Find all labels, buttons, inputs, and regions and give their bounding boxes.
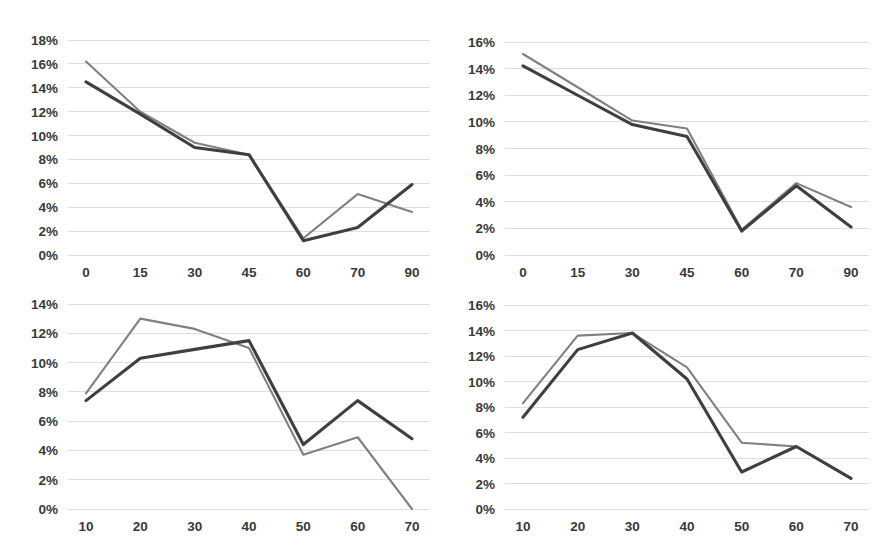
- x-axis-tick-label: 90: [404, 265, 419, 280]
- y-axis-tick-label: 14%: [468, 324, 495, 339]
- y-axis-tick-label: 2%: [475, 477, 495, 492]
- y-axis-tick-label: 10%: [31, 129, 58, 144]
- y-axis-tick-label: 2%: [38, 473, 58, 488]
- x-axis-tick-label: 10: [78, 519, 93, 534]
- y-axis-tick-label: 0%: [475, 248, 495, 263]
- y-axis-tick-label: 0%: [38, 502, 58, 517]
- x-axis-tick-label: 30: [187, 265, 202, 280]
- x-axis-tick-label: 10: [515, 519, 530, 534]
- y-axis-tick-label: 0%: [475, 502, 495, 517]
- y-axis-tick-label: 8%: [38, 385, 58, 400]
- series-line-series-b: [86, 341, 412, 445]
- x-axis-tick-label: 30: [187, 519, 202, 534]
- x-axis-tick-label: 60: [296, 265, 311, 280]
- y-axis-tick-label: 14%: [468, 62, 495, 77]
- series-line-series-a: [86, 319, 412, 509]
- x-axis-tick-label: 60: [350, 519, 365, 534]
- chart-panel-bottom-left: 0%2%4%6%8%10%12%14%10203040506070: [0, 282, 437, 560]
- x-axis-tick-label: 45: [679, 265, 695, 280]
- x-axis-tick-label: 50: [734, 519, 749, 534]
- x-axis-tick-label: 15: [133, 265, 149, 280]
- y-axis-tick-label: 10%: [468, 375, 495, 390]
- y-axis-tick-label: 14%: [31, 297, 58, 312]
- y-axis-tick-label: 0%: [38, 248, 58, 263]
- y-axis-tick-label: 14%: [31, 81, 58, 96]
- chart-bottom-right: 0%2%4%6%8%10%12%14%16%10203040506070: [437, 282, 877, 560]
- y-axis-tick-label: 6%: [38, 414, 58, 429]
- x-axis-tick-label: 60: [734, 265, 749, 280]
- charts-grid: 0%2%4%6%8%10%12%14%16%18%0153045607090 0…: [0, 0, 877, 560]
- x-axis-tick-label: 45: [241, 265, 257, 280]
- x-axis-tick-label: 70: [404, 519, 419, 534]
- y-axis-tick-label: 12%: [468, 349, 495, 364]
- y-axis-tick-label: 12%: [468, 88, 495, 103]
- x-axis-tick-label: 60: [789, 519, 804, 534]
- y-axis-tick-label: 6%: [38, 176, 58, 191]
- x-axis-tick-label: 70: [843, 519, 858, 534]
- y-axis-tick-label: 10%: [468, 115, 495, 130]
- x-axis-tick-label: 15: [570, 265, 586, 280]
- y-axis-tick-label: 2%: [475, 221, 495, 236]
- series-line-series-b: [523, 333, 851, 478]
- y-axis-tick-label: 16%: [31, 57, 58, 72]
- chart-bottom-left: 0%2%4%6%8%10%12%14%10203040506070: [0, 282, 437, 560]
- x-axis-tick-label: 40: [679, 519, 694, 534]
- chart-top-right: 0%2%4%6%8%10%12%14%16%0153045607090: [437, 0, 877, 282]
- y-axis-tick-label: 4%: [475, 451, 495, 466]
- y-axis-tick-label: 8%: [475, 400, 495, 415]
- y-axis-tick-label: 8%: [475, 142, 495, 157]
- x-axis-tick-label: 0: [82, 265, 90, 280]
- y-axis-tick-label: 2%: [38, 224, 58, 239]
- y-axis-tick-label: 6%: [475, 426, 495, 441]
- x-axis-tick-label: 30: [625, 519, 640, 534]
- series-line-series-a: [523, 54, 851, 230]
- y-axis-tick-label: 8%: [38, 152, 58, 167]
- x-axis-tick-label: 50: [296, 519, 311, 534]
- y-axis-tick-label: 6%: [475, 168, 495, 183]
- x-axis-tick-label: 30: [625, 265, 640, 280]
- y-axis-tick-label: 12%: [31, 326, 58, 341]
- x-axis-tick-label: 40: [241, 519, 256, 534]
- y-axis-tick-label: 4%: [475, 195, 495, 210]
- y-axis-tick-label: 4%: [38, 200, 58, 215]
- chart-panel-bottom-right: 0%2%4%6%8%10%12%14%16%10203040506070: [437, 282, 877, 560]
- chart-top-left: 0%2%4%6%8%10%12%14%16%18%0153045607090: [0, 0, 437, 282]
- x-axis-tick-label: 90: [843, 265, 858, 280]
- y-axis-tick-label: 18%: [31, 33, 58, 48]
- chart-panel-top-left: 0%2%4%6%8%10%12%14%16%18%0153045607090: [0, 0, 437, 282]
- y-axis-tick-label: 12%: [31, 105, 58, 120]
- x-axis-tick-label: 0: [519, 265, 527, 280]
- y-axis-tick-label: 16%: [468, 298, 495, 313]
- y-axis-tick-label: 4%: [38, 443, 58, 458]
- chart-panel-top-right: 0%2%4%6%8%10%12%14%16%0153045607090: [437, 0, 877, 282]
- x-axis-tick-label: 70: [789, 265, 804, 280]
- x-axis-tick-label: 20: [133, 519, 148, 534]
- x-axis-tick-label: 70: [350, 265, 365, 280]
- y-axis-tick-label: 16%: [468, 35, 495, 50]
- y-axis-tick-label: 10%: [31, 356, 58, 371]
- x-axis-tick-label: 20: [570, 519, 585, 534]
